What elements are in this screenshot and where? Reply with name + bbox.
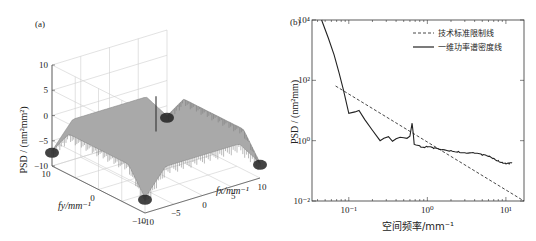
x-tick-label: 10 [258,182,268,192]
figure: (a) 1050−5−10 100−10 −10−50510 PSD / (nm… [0,0,536,241]
legend: 技术标准限制线 一维功率谱密度线 [413,28,502,52]
x-tick-label: 10⁻¹ [341,205,358,215]
y-tick-label: 10⁴ [298,15,310,25]
panel-a-x-axis-label: fx/mm⁻¹ [216,185,249,196]
legend-label-limit-line: 技术标准限制线 [438,28,494,38]
panel-a-z-axis-label: PSD / (nm²mm²) [18,106,30,173]
panel-b-line-chart: (b) 10⁴10²10⁰10⁻² 10⁻¹10⁰10¹ 技术标准限制线 一维功… [289,15,524,232]
z-tick-label: 0 [44,111,49,121]
z-tick-label: −5 [38,136,48,146]
z-tick-label: 5 [44,85,49,95]
panel-b-y-axis-label: PSD / (nm²mm) [289,80,301,144]
x-tick-label: −10 [140,217,155,227]
legend-label-psd-line: 一维功率谱密度线 [438,42,502,52]
y-tick-label: 10² [298,75,310,85]
y-tick-label: 10⁻² [294,196,311,206]
surface-corner-dip [160,113,174,123]
series-technical-standard-limit-line [336,86,524,201]
panel-b-x-tick-labels: 10⁻¹10⁰10¹ [341,205,512,215]
z-tick-label: 10 [39,60,49,70]
x-tick-label: −5 [171,208,181,218]
x-tick-label: 0 [202,200,207,210]
panel-a-3d-surface: (a) 1050−5−10 100−10 −10−50510 PSD / (nm… [18,19,267,227]
surface-corner-dip [253,160,267,170]
series-1d-psd-line [322,20,512,164]
panel-a-y-axis-label: fy/mm⁻¹ [58,200,91,211]
y-tick-label: 0 [90,193,95,203]
surface-corner-dip [138,195,152,205]
panel-a-label: (a) [35,19,45,29]
x-tick-label: 10⁰ [421,205,434,215]
panel-b-x-axis-label: 空间频率/mm⁻¹ [382,220,454,232]
x-tick-label: 10¹ [500,205,512,215]
y-tick-label: 10 [42,169,52,179]
panel-a-y-ticks: 100−10 [42,169,147,226]
